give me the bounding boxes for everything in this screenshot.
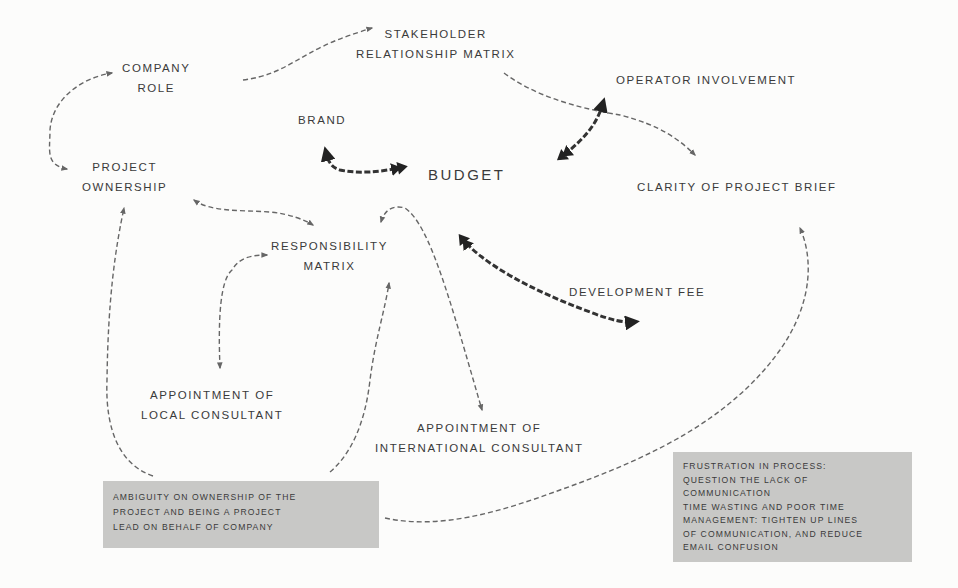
note-line: TIME WASTING AND POOR TIME bbox=[683, 501, 902, 515]
note-ambiguity: AMBIGUITY ON OWNERSHIP OF THE PROJECT AN… bbox=[103, 481, 379, 548]
node-line: ROLE bbox=[122, 78, 191, 98]
node-responsibility-matrix: RESPONSIBILITY MATRIX bbox=[271, 236, 388, 276]
node-line: APPOINTMENT OF bbox=[375, 418, 584, 438]
edge-ambiguity-to-ownership bbox=[107, 208, 153, 476]
node-project-ownership: PROJECT OWNERSHIP bbox=[82, 157, 167, 197]
edge-company-role-to-stakeholder bbox=[243, 28, 372, 80]
node-line: RELATIONSHIP MATRIX bbox=[356, 44, 515, 64]
note-frustration: FRUSTRATION IN PROCESS: QUESTION THE LAC… bbox=[673, 452, 912, 562]
edge-budget-to-brand bbox=[326, 152, 404, 172]
node-line: BUDGET bbox=[428, 165, 506, 185]
node-clarity-of-project-brief: CLARITY OF PROJECT BRIEF bbox=[637, 177, 837, 197]
node-operator-involvement: OPERATOR INVOLVEMENT bbox=[616, 70, 796, 90]
node-company-role: COMPANY ROLE bbox=[122, 58, 191, 98]
note-line: QUESTION THE LACK OF bbox=[683, 474, 902, 488]
note-line: LEAD ON BEHALF OF COMPANY bbox=[113, 520, 369, 535]
node-line: BRAND bbox=[298, 110, 346, 130]
node-local-consultant: APPOINTMENT OF LOCAL CONSULTANT bbox=[141, 385, 283, 425]
edge-international-responsibility bbox=[381, 207, 482, 410]
note-line: PROJECT AND BEING A PROJECT bbox=[113, 505, 369, 520]
node-line: OPERATOR INVOLVEMENT bbox=[616, 70, 796, 90]
node-line: CLARITY OF PROJECT BRIEF bbox=[637, 177, 837, 197]
node-line: DEVELOPMENT FEE bbox=[569, 282, 705, 302]
node-stakeholder-relationship-matrix: STAKEHOLDER RELATIONSHIP MATRIX bbox=[356, 24, 515, 64]
edge-ownership-company-role bbox=[50, 73, 112, 169]
node-line: LOCAL CONSULTANT bbox=[141, 405, 283, 425]
node-line: APPOINTMENT OF bbox=[141, 385, 283, 405]
note-line: AMBIGUITY ON OWNERSHIP OF THE bbox=[113, 490, 369, 505]
node-line: OWNERSHIP bbox=[82, 177, 167, 197]
edge-budget-devfee bbox=[461, 237, 634, 322]
node-line: COMPANY bbox=[122, 58, 191, 78]
note-line: EMAIL CONFUSION bbox=[683, 541, 902, 555]
note-line: MANAGEMENT: TIGHTEN UP LINES bbox=[683, 514, 902, 528]
edge-ownership-responsibility bbox=[194, 200, 313, 225]
node-line: STAKEHOLDER bbox=[356, 24, 515, 44]
note-line: FRUSTRATION IN PROCESS: bbox=[683, 460, 902, 474]
node-line: RESPONSIBILITY bbox=[271, 236, 388, 256]
node-international-consultant: APPOINTMENT OF INTERNATIONAL CONSULTANT bbox=[375, 418, 584, 458]
note-line: OF COMMUNICATION, AND REDUCE bbox=[683, 528, 902, 542]
node-development-fee: DEVELOPMENT FEE bbox=[569, 282, 705, 302]
node-brand: BRAND bbox=[298, 110, 346, 130]
node-line: MATRIX bbox=[271, 256, 388, 276]
node-line: PROJECT bbox=[82, 157, 167, 177]
note-line: COMMUNICATION bbox=[683, 487, 902, 501]
edge-local-responsibility bbox=[219, 255, 267, 368]
node-budget: BUDGET bbox=[428, 165, 506, 185]
node-line: INTERNATIONAL CONSULTANT bbox=[375, 438, 584, 458]
